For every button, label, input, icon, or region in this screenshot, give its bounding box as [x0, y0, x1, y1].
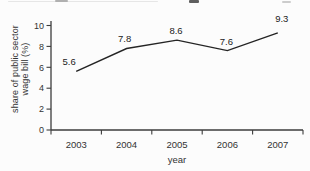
- screenshot-root: 0246810200320042005200620075.67.88.67.69…: [0, 0, 310, 171]
- y-tick-label: 2: [39, 104, 44, 114]
- x-tick-label: 2004: [116, 139, 137, 150]
- data-point-label: 7.8: [118, 33, 131, 44]
- chart-canvas: 0246810200320042005200620075.67.88.67.69…: [0, 0, 310, 171]
- y-tick-label: 10: [34, 21, 44, 31]
- x-axis-title: year: [168, 154, 186, 165]
- x-tick-label: 2006: [217, 139, 238, 150]
- data-point-label: 5.6: [63, 56, 76, 67]
- y-tick-label: 6: [39, 63, 44, 73]
- y-tick-label: 4: [39, 83, 44, 93]
- data-line: [76, 33, 278, 72]
- y-axis-title-line: wage bill (%): [20, 14, 30, 124]
- x-tick-label: 2003: [66, 139, 87, 150]
- wage-bill-line-chart: 0246810200320042005200620075.67.88.67.69…: [0, 0, 310, 171]
- y-tick-label: 0: [39, 125, 44, 135]
- y-axis-title-line: share of public sector: [10, 14, 20, 124]
- x-tick-label: 2007: [267, 139, 288, 150]
- x-tick-label: 2005: [166, 139, 187, 150]
- data-point-label: 9.3: [275, 13, 288, 24]
- y-tick-label: 8: [39, 42, 44, 52]
- data-point-label: 7.6: [220, 36, 233, 47]
- data-point-label: 8.6: [169, 25, 182, 36]
- y-axis-title: share of public sector wage bill (%): [10, 14, 30, 124]
